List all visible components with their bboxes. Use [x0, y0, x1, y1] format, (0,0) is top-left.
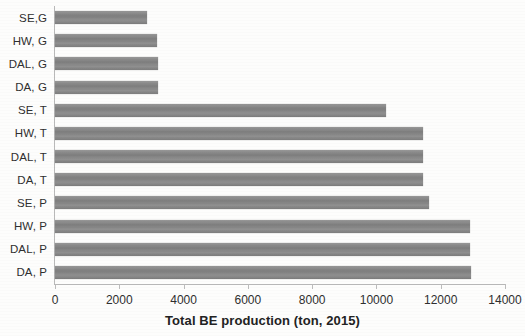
x-axis-line — [54, 284, 505, 285]
x-axis-tick-label: 10000 — [346, 293, 406, 307]
x-axis-tick-mark — [312, 284, 313, 289]
y-axis-tick-label: HW, T — [0, 127, 47, 139]
x-axis-tick-label: 12000 — [411, 293, 471, 307]
bar-chart-figure: SE,GHW, GDAL, GDA, GSE, THW, TDAL, TDA, … — [0, 0, 525, 336]
x-axis-tick-label: 4000 — [154, 293, 214, 307]
y-axis-tick-label: HW, G — [0, 35, 47, 47]
y-axis-tick-label: DAL, G — [0, 58, 47, 70]
y-axis-tick-label: SE,G — [0, 12, 47, 24]
bar — [55, 11, 147, 24]
x-axis-tick-label: 2000 — [89, 293, 149, 307]
y-axis-tick-label: DA, T — [0, 174, 47, 186]
bar — [55, 196, 429, 209]
x-axis-tick-label: 14000 — [475, 293, 525, 307]
x-axis-title: Total BE production (ton, 2015) — [0, 313, 525, 328]
x-axis-tick-label: 0 — [25, 293, 85, 307]
y-axis-tick-label: SE, T — [0, 104, 47, 116]
bar — [55, 57, 158, 70]
y-axis-tick-label: DAL, T — [0, 151, 47, 163]
bar — [55, 220, 470, 233]
x-axis-tick-mark — [55, 284, 56, 289]
x-axis-tick-mark — [184, 284, 185, 289]
bar — [55, 81, 158, 94]
bar — [55, 104, 386, 117]
y-axis-tick-label: HW, P — [0, 220, 47, 232]
y-axis-tick-label: DAL, P — [0, 243, 47, 255]
bar — [55, 266, 471, 279]
y-axis-tick-label: SE, P — [0, 197, 47, 209]
bar — [55, 127, 423, 140]
bar — [55, 150, 423, 163]
x-axis-tick-label: 8000 — [282, 293, 342, 307]
bar — [55, 173, 423, 186]
x-axis-tick-mark — [441, 284, 442, 289]
y-axis-tick-label: DA, G — [0, 81, 47, 93]
y-axis-category-labels: SE,GHW, GDAL, GDA, GSE, THW, TDAL, TDA, … — [0, 6, 50, 284]
x-axis-tick-mark — [248, 284, 249, 289]
bar — [55, 243, 470, 256]
x-axis-tick-label: 6000 — [218, 293, 278, 307]
x-axis-tick-mark — [119, 284, 120, 289]
x-axis-tick-mark — [376, 284, 377, 289]
y-axis-tick-label: DA, P — [0, 266, 47, 278]
bar — [55, 34, 157, 47]
plot-area: 02000400060008000100001200014000 — [55, 6, 505, 284]
x-axis-tick-mark — [505, 284, 506, 289]
